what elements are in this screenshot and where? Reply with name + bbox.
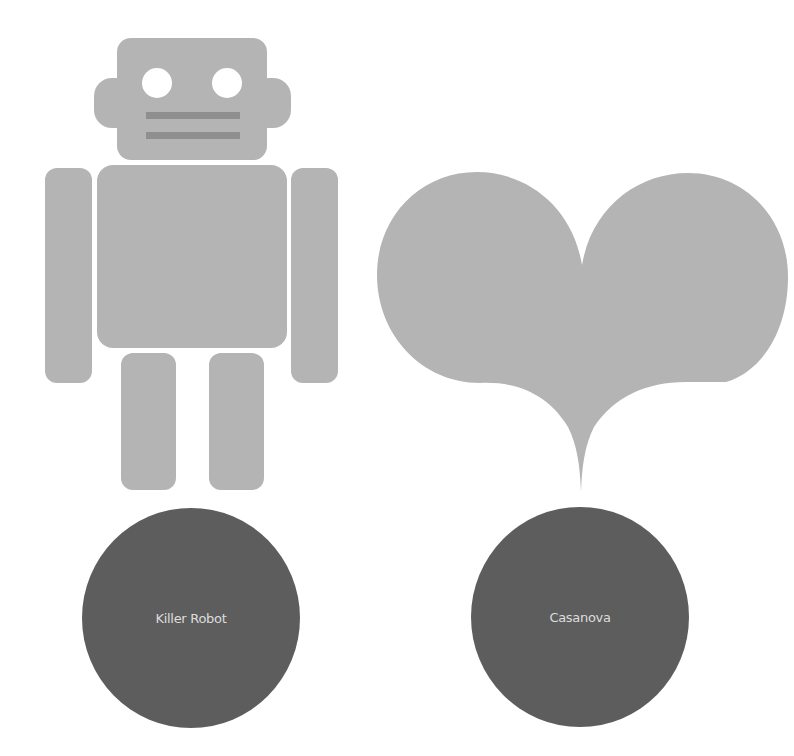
robot-mouth-upper — [146, 112, 240, 119]
robot-body — [97, 165, 287, 348]
casanova-label: Casanova — [549, 610, 610, 625]
robot-right-eye — [212, 68, 242, 98]
casanova-disc: Casanova — [471, 507, 689, 727]
killer-robot-disc: Killer Robot — [82, 508, 300, 728]
killer-robot-label: Killer Robot — [156, 611, 227, 626]
robot-left-leg — [121, 353, 176, 490]
robot-right-leg — [209, 353, 264, 490]
robot-head — [117, 38, 267, 160]
robot-left-arm — [45, 168, 92, 383]
heart-icon — [370, 165, 794, 500]
robot-left-eye — [142, 68, 172, 98]
robot-mouth-lower — [146, 132, 240, 139]
robot-right-arm — [291, 168, 338, 383]
